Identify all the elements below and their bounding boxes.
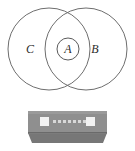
indicator-dot [53,120,56,123]
led-right [86,117,95,126]
venn-label-a: A [63,42,72,56]
figure-canvas: C A B [0,0,135,151]
device-top-highlight [28,111,107,114]
venn-diagram: C A B [0,0,135,100]
indicator-dot [83,120,86,123]
led-left [40,117,49,126]
indicator-dot [63,120,66,123]
indicator-dot [78,120,81,123]
indicator-dot [58,120,61,123]
device-body [28,111,107,134]
device-edge-line [28,132,107,134]
indicator-dot [68,120,71,123]
indicator-dot [73,120,76,123]
venn-circle-c [8,8,90,90]
venn-label-b: B [91,42,99,56]
device-front-face [28,133,107,143]
venn-label-c: C [26,42,35,56]
network-switch [0,100,135,151]
